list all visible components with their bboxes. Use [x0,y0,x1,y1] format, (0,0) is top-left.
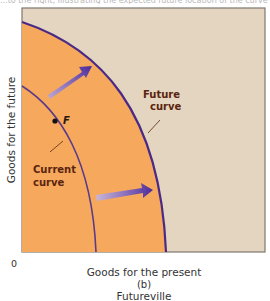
origin-label: 0 [11,258,17,269]
point-f-marker [52,118,57,123]
current-curve-label-line2: curve [33,177,64,188]
point-f-label: F [63,115,70,126]
panel-label: (b) [22,279,266,290]
x-axis-label: Goods for the present [22,266,266,278]
future-curve-label-line2: curve [150,101,181,112]
future-curve-label-line1: Future [143,89,180,100]
y-axis-label: Goods for the future [5,77,17,183]
current-curve-label-line1: Current [33,164,76,175]
figure-title: Futureville [22,290,266,301]
ppf-diagram: F Future curve Current curve [0,0,270,301]
